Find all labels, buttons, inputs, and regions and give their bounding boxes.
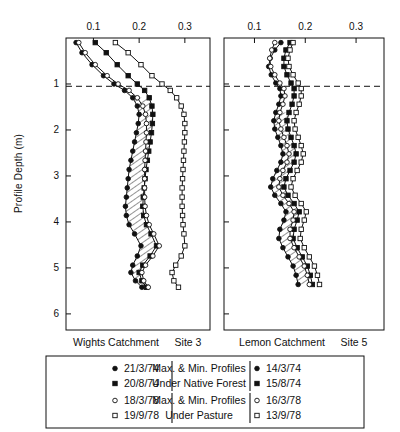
data-point-21-3-74 xyxy=(125,186,130,191)
data-point-18-3-78 xyxy=(141,278,146,283)
data-point-13-9-78 xyxy=(294,110,298,114)
data-point-18-3-78 xyxy=(142,195,147,200)
data-point-16-3-78 xyxy=(287,201,292,206)
data-point-15-8-74 xyxy=(288,168,292,172)
data-point-19-9-78 xyxy=(174,96,178,100)
data-point-15-8-74 xyxy=(287,110,291,114)
data-point-13-9-78 xyxy=(298,236,302,240)
legend-layer: 21/3/7414/3/7420/8/7415/8/7418/3/7816/3/… xyxy=(46,356,364,428)
data-point-14-3-74 xyxy=(281,152,286,157)
axes-layer: 0.10.20.30.10.20.3123456 xyxy=(53,21,384,330)
x-tick-label: 0.1 xyxy=(86,21,100,32)
data-point-21-3-74 xyxy=(140,285,145,290)
legend-date-right-2: 16/3/78 xyxy=(266,394,301,406)
data-point-15-8-74 xyxy=(286,127,290,131)
data-point-21-3-74 xyxy=(133,278,138,283)
data-point-16-3-78 xyxy=(287,152,292,157)
data-point-16-3-78 xyxy=(268,64,273,69)
data-point-15-8-74 xyxy=(285,119,289,123)
data-point-14-3-74 xyxy=(279,143,284,148)
data-point-14-3-74 xyxy=(275,168,280,173)
legend-marker-right-0 xyxy=(255,366,260,371)
data-point-15-8-74 xyxy=(285,73,289,77)
data-point-16-3-78 xyxy=(281,168,286,173)
data-point-14-3-74 xyxy=(276,135,281,140)
data-point-19-9-78 xyxy=(172,279,176,283)
data-point-16-3-78 xyxy=(282,135,287,140)
x-tick-label: 0.1 xyxy=(248,21,262,32)
data-point-19-9-78 xyxy=(179,254,183,258)
data-point-13-9-78 xyxy=(312,264,316,268)
data-point-14-3-74 xyxy=(268,185,273,190)
data-point-19-9-78 xyxy=(182,112,186,116)
data-point-16-3-78 xyxy=(272,40,277,45)
data-point-14-3-74 xyxy=(284,210,289,215)
data-point-15-8-74 xyxy=(282,185,286,189)
legend-marker-left-2 xyxy=(113,398,118,403)
y-tick-label: 3 xyxy=(53,170,59,181)
panel-title-catchment-left: Wights Catchment xyxy=(73,336,159,348)
data-point-13-9-78 xyxy=(299,86,303,90)
data-point-15-8-74 xyxy=(297,210,301,214)
data-point-16-3-78 xyxy=(292,210,297,215)
data-point-18-3-78 xyxy=(143,263,148,268)
legend-marker-right-3 xyxy=(255,413,259,417)
data-point-19-9-78 xyxy=(181,167,185,171)
data-point-21-3-74 xyxy=(130,149,135,154)
data-point-19-9-78 xyxy=(180,177,184,181)
data-point-13-9-78 xyxy=(307,255,311,259)
data-point-18-3-78 xyxy=(140,270,145,275)
data-point-14-3-74 xyxy=(271,118,276,123)
data-point-16-3-78 xyxy=(307,282,312,287)
data-point-20-8-74 xyxy=(135,82,139,86)
data-point-14-3-74 xyxy=(281,245,286,250)
data-point-16-3-78 xyxy=(281,193,286,198)
data-point-18-3-78 xyxy=(93,62,98,67)
data-point-18-3-78 xyxy=(142,167,147,172)
hatched-envelope-layer xyxy=(125,98,312,287)
data-point-16-3-78 xyxy=(267,56,272,61)
data-point-19-9-78 xyxy=(180,186,184,190)
data-point-19-9-78 xyxy=(182,140,186,144)
data-point-15-8-74 xyxy=(286,193,290,197)
data-point-15-8-74 xyxy=(292,160,296,164)
data-point-21-3-74 xyxy=(127,167,132,172)
data-point-13-9-78 xyxy=(291,177,295,181)
data-point-13-9-78 xyxy=(293,193,297,197)
panel-title-site-left: Site 3 xyxy=(175,336,202,348)
data-point-21-3-74 xyxy=(130,263,135,268)
data-point-14-3-74 xyxy=(296,282,301,287)
data-point-16-3-78 xyxy=(282,86,287,91)
data-point-14-3-74 xyxy=(282,218,287,223)
data-point-19-9-78 xyxy=(180,213,184,217)
data-point-21-3-74 xyxy=(135,254,140,259)
data-point-18-3-78 xyxy=(144,213,149,218)
data-point-18-3-78 xyxy=(83,50,88,55)
data-point-13-9-78 xyxy=(299,227,303,231)
data-point-20-8-74 xyxy=(150,121,154,125)
data-point-16-3-78 xyxy=(288,236,293,241)
data-point-18-3-78 xyxy=(143,149,148,154)
data-point-21-3-74 xyxy=(129,158,134,163)
data-point-13-9-78 xyxy=(293,127,297,131)
data-point-20-8-74 xyxy=(142,88,146,92)
data-point-13-9-78 xyxy=(296,135,300,139)
data-point-16-3-78 xyxy=(269,48,274,53)
x-tick-label: 0.3 xyxy=(178,21,192,32)
data-point-13-9-78 xyxy=(292,119,296,123)
legend-group-forest-line2: Under Native Forest xyxy=(152,377,246,389)
data-point-18-3-78 xyxy=(143,158,148,163)
data-point-18-3-78 xyxy=(157,244,162,249)
data-point-20-8-74 xyxy=(149,131,153,135)
data-point-13-9-78 xyxy=(296,81,300,85)
data-point-18-3-78 xyxy=(142,186,147,191)
data-point-14-3-74 xyxy=(294,273,299,278)
data-point-13-9-78 xyxy=(289,185,293,189)
data-point-13-9-78 xyxy=(295,168,299,172)
data-point-15-8-74 xyxy=(289,81,293,85)
data-point-19-9-78 xyxy=(170,270,174,274)
data-point-19-9-78 xyxy=(180,204,184,208)
legend-marker-right-2 xyxy=(255,398,260,403)
data-point-19-9-78 xyxy=(182,232,186,236)
data-point-13-9-78 xyxy=(315,273,319,277)
